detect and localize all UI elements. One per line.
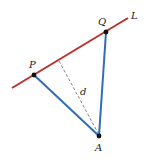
distance-diagram: L P Q A d: [0, 0, 146, 160]
label-d: d: [80, 86, 86, 97]
segment-PA: [34, 75, 99, 136]
point-Q: [104, 30, 109, 35]
label-P: P: [28, 59, 36, 70]
label-A: A: [94, 142, 102, 153]
point-A: [97, 134, 102, 139]
perpendicular-distance-d: [59, 61, 98, 133]
label-Q: Q: [98, 16, 106, 27]
line-L: [12, 18, 128, 88]
point-P: [32, 73, 37, 78]
label-L: L: [130, 10, 138, 21]
segment-QA: [99, 32, 106, 136]
